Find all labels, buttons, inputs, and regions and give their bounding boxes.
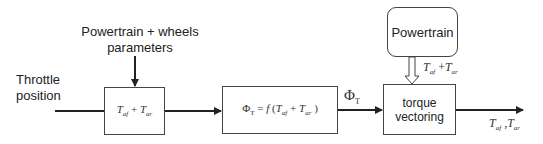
output-signal-label: Taf ,Tar — [489, 116, 520, 132]
params-label-line1: Powertrain + wheels — [80, 24, 200, 40]
powertrain-signal-label: Taf +Tar — [423, 60, 458, 76]
powertrain-wheels-parameters-label: Powertrain + wheels parameters — [80, 24, 200, 56]
throttle-label-line2: position — [16, 88, 61, 104]
phi-function-expression: ΦT = f (Taf + Tar ) — [242, 102, 318, 117]
powertrain-hollow-arrow — [405, 57, 419, 84]
powertrain-block: Powertrain — [387, 7, 458, 57]
throttle-label-line1: Throttle — [16, 72, 61, 88]
phi-function-block: ΦT = f (Taf + Tar ) — [222, 86, 338, 134]
phi-signal-label: ΦT — [344, 87, 360, 106]
torque-vectoring-line2: vectoring — [395, 110, 444, 124]
powertrain-label: Powertrain — [391, 25, 453, 40]
params-label-line2: parameters — [80, 40, 200, 56]
torque-vectoring-line1: torque — [395, 96, 444, 110]
throttle-position-label: Throttle position — [16, 72, 61, 104]
torque-vectoring-block: torque vectoring — [383, 84, 456, 135]
torque-sum-expression: Taf + Tar — [117, 103, 153, 118]
torque-sum-block: Taf + Tar — [104, 87, 165, 135]
